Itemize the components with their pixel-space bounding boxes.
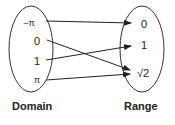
range-element-1: 1 xyxy=(141,39,147,51)
range-element-0: 0 xyxy=(141,18,147,30)
domain-element-neg-pi: −π xyxy=(23,18,34,28)
domain-element-1: 1 xyxy=(34,55,40,67)
arrow-0-to-sqrt2 xyxy=(47,40,130,70)
domain-element-pi: π xyxy=(34,75,40,85)
domain-title: Domain xyxy=(12,100,52,112)
arrow-1-to-1 xyxy=(46,46,131,60)
arrow-pi-to-sqrt2 xyxy=(46,74,130,80)
domain-element-0: 0 xyxy=(34,35,40,47)
range-title: Range xyxy=(124,100,158,112)
range-element-sqrt2: √2 xyxy=(137,67,149,79)
arrow-negpi-to-0 xyxy=(46,21,131,23)
